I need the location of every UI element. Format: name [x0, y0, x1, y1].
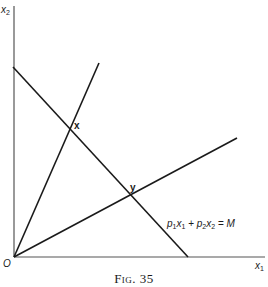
- origin-label: O: [3, 259, 11, 269]
- point-y-label: y: [130, 183, 136, 193]
- y-axis-label: x2: [1, 5, 10, 16]
- figure-caption: Fig. 35: [0, 271, 268, 287]
- eq-plus: +: [188, 218, 194, 229]
- eq-rhs: M: [227, 218, 235, 229]
- y-axis-label-sub: 2: [6, 9, 10, 16]
- eq-x2-sub: 2: [211, 223, 215, 230]
- caption-number: 35: [140, 271, 154, 286]
- point-x-label: x: [74, 121, 80, 131]
- ray-through-y: [14, 138, 237, 257]
- ray-through-x: [14, 63, 99, 257]
- budget-diagram: [0, 0, 268, 287]
- eq-equals: =: [218, 218, 224, 229]
- eq-x1-sub: 1: [181, 223, 185, 230]
- budget-equation: p1x1 + p2x2 = M: [167, 219, 235, 230]
- caption-prefix: Fig.: [114, 271, 136, 286]
- budget-line: [13, 67, 188, 257]
